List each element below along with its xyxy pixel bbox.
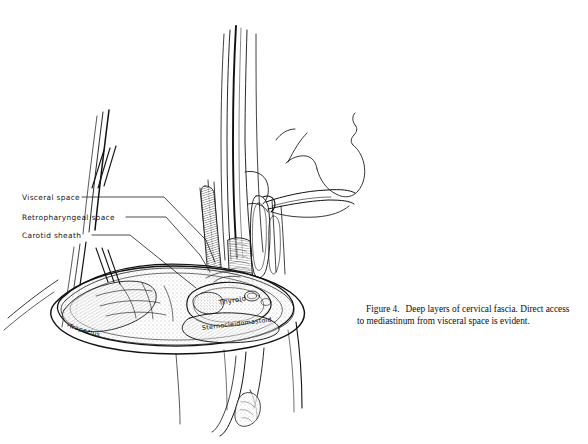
caption-text-line-2: to mediastinum from visceral space is ev… bbox=[357, 316, 530, 326]
figure-number: Figure 4. bbox=[366, 304, 400, 314]
chest-wall-left bbox=[176, 354, 180, 424]
caption-text-line-1: Deep layers of cervical fascia. Direct a… bbox=[406, 304, 570, 314]
figure-caption: Figure 4.Deep layers of cervical fascia.… bbox=[357, 303, 582, 327]
cervical-fascia-illustration bbox=[0, 0, 588, 444]
carotid-sheath-right bbox=[281, 206, 285, 274]
chest-wall-right bbox=[296, 322, 302, 408]
annotation-label-retropharyngeal-space: Retropharyngeal space bbox=[22, 214, 115, 221]
airway-column-group bbox=[221, 26, 268, 287]
head-profile-group bbox=[276, 113, 365, 197]
ear-lobe-contour bbox=[276, 129, 295, 140]
chest-wall-right-inner bbox=[288, 330, 294, 412]
hyoid-shadow bbox=[272, 197, 331, 206]
neck-skin-left-outer bbox=[95, 110, 109, 230]
cross-section-disc-group bbox=[51, 264, 305, 354]
leader-visceral-space bbox=[82, 197, 215, 262]
arm-inner-contour bbox=[212, 356, 236, 432]
sternum-midline bbox=[224, 350, 227, 410]
jaw-angle-outline bbox=[353, 113, 355, 125]
cheek-contour bbox=[288, 133, 307, 162]
mandible-body-outline bbox=[317, 169, 358, 197]
caption-line-1: Figure 4.Deep layers of cervical fascia.… bbox=[357, 303, 582, 315]
annotation-label-visceral-space: Visceral space bbox=[22, 194, 80, 201]
figure-page: Visceral space Retropharyngeal space Car… bbox=[0, 0, 588, 444]
annotation-label-carotid-sheath: Carotid sheath bbox=[22, 232, 81, 239]
arm-group bbox=[212, 348, 264, 436]
lower-lip-outline bbox=[351, 125, 357, 145]
submandibular-contour bbox=[272, 206, 349, 217]
pretracheal-fascia-sheet bbox=[272, 200, 276, 272]
carotid-lumen-outer bbox=[250, 196, 270, 278]
prevertebral-fascia-line bbox=[221, 34, 225, 260]
caption-line-2: to mediastinum from visceral space is ev… bbox=[357, 315, 582, 327]
carotid-lumen-inner bbox=[252, 203, 266, 270]
hyoid-shelf-group bbox=[263, 190, 355, 218]
mandible-ramus-outline bbox=[286, 156, 317, 169]
chin-outline bbox=[353, 145, 365, 191]
shoulder-slope-outer bbox=[4, 292, 54, 330]
trachea-posterior-line bbox=[256, 34, 263, 252]
pharynx-anterior-wall-inner bbox=[227, 30, 231, 260]
pharynx-anterior-wall bbox=[233, 26, 237, 258]
airway-highlight bbox=[239, 28, 243, 258]
